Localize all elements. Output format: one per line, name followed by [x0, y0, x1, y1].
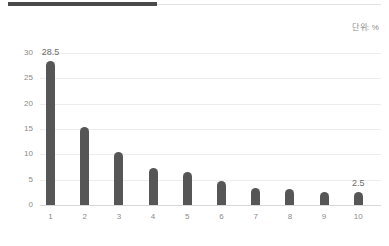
- bar-1[interactable]: [46, 61, 55, 205]
- bar-10[interactable]: [354, 192, 363, 205]
- bar-4[interactable]: [149, 168, 158, 205]
- x-axis-tick-label: 9: [312, 212, 336, 221]
- x-axis-tick-label: 3: [107, 212, 131, 221]
- gridline-25: [40, 78, 381, 79]
- x-axis-tick-label: 5: [175, 212, 199, 221]
- x-axis-tick-label: 10: [346, 212, 370, 221]
- gridline-30: [40, 53, 381, 54]
- bar-3[interactable]: [114, 152, 123, 205]
- x-axis-tick-label: 4: [141, 212, 165, 221]
- y-axis-tick-label: 5: [0, 176, 33, 184]
- gridline-0: [40, 205, 381, 206]
- gridline-15: [40, 129, 381, 130]
- y-axis-tick-label: 10: [0, 150, 33, 158]
- y-axis-tick-label: 25: [0, 74, 33, 82]
- x-axis-tick-label: 6: [210, 212, 234, 221]
- y-axis-tick-label: 15: [0, 125, 33, 133]
- gridline-20: [40, 104, 381, 105]
- bar-2[interactable]: [80, 127, 89, 205]
- bar-5[interactable]: [183, 172, 192, 205]
- y-axis-tick-label: 30: [0, 49, 33, 57]
- y-axis-tick-label: 20: [0, 100, 33, 108]
- y-axis-tick-label: 0: [0, 201, 33, 209]
- bar-9[interactable]: [320, 192, 329, 205]
- gridline-10: [40, 154, 381, 155]
- x-axis-tick-label: 7: [244, 212, 268, 221]
- bar-6[interactable]: [217, 181, 226, 205]
- x-axis-tick-label: 8: [278, 212, 302, 221]
- data-label-10: 2.5: [338, 179, 378, 188]
- gridline-5: [40, 180, 381, 181]
- x-axis-tick-label: 1: [39, 212, 63, 221]
- bar-7[interactable]: [251, 188, 260, 205]
- bar-8[interactable]: [285, 189, 294, 205]
- bar-chart-plot: 3025201510501234567891028.52.5: [0, 0, 389, 246]
- x-axis-tick-label: 2: [73, 212, 97, 221]
- data-label-1: 28.5: [31, 48, 71, 57]
